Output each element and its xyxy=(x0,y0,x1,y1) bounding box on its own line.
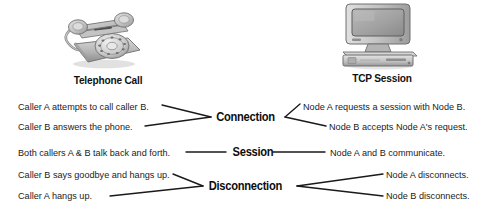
line-right-connection-1 xyxy=(285,104,300,117)
right-event-5: Node B disconnects. xyxy=(386,190,470,201)
line-left-disconnection-2 xyxy=(110,186,203,196)
right-event-4: Node A disconnects. xyxy=(386,169,469,180)
line-right-connection-2 xyxy=(285,117,326,126)
diagram-canvas: Telephone Call xyxy=(0,0,492,217)
rotary-telephone-icon xyxy=(54,4,150,70)
right-event-2: Node B accepts Node A's request. xyxy=(329,121,468,132)
line-left-disconnection-1 xyxy=(173,174,203,186)
left-event-4: Caller B says goodbye and hangs up. xyxy=(18,169,170,180)
right-event-1: Node A requests a session with Node B. xyxy=(303,101,465,112)
right-event-3: Node A and B communicate. xyxy=(330,147,445,158)
desktop-computer-glyph xyxy=(330,0,426,70)
line-right-disconnection-2 xyxy=(297,186,383,196)
telephone-call-caption: Telephone Call xyxy=(34,74,181,86)
rotary-telephone-glyph xyxy=(54,4,150,70)
left-event-5: Caller A hangs up. xyxy=(18,190,92,201)
desktop-computer-icon xyxy=(330,0,426,66)
left-event-2: Caller B answers the phone. xyxy=(18,121,133,132)
tcp-session-caption: TCP Session xyxy=(308,72,455,84)
line-left-connection-2 xyxy=(145,117,211,126)
phase-label-session: Session xyxy=(233,145,274,159)
line-right-disconnection-1 xyxy=(297,174,383,186)
left-event-1: Caller A attempts to call caller B. xyxy=(18,101,149,112)
phase-label-connection: Connection xyxy=(216,110,275,124)
phase-label-disconnection: Disconnection xyxy=(209,179,282,193)
left-event-3: Both callers A & B talk back and forth. xyxy=(18,147,170,158)
line-left-connection-1 xyxy=(162,105,211,117)
